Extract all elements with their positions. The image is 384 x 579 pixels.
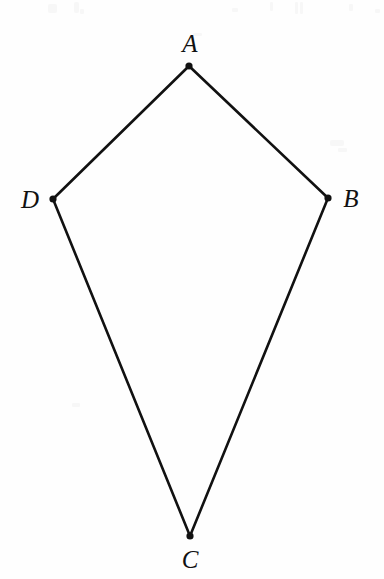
- vertex-dot-C: [186, 532, 193, 539]
- edge-group: [53, 66, 328, 536]
- vertex-dot-B: [324, 194, 331, 201]
- edge-DA: [53, 66, 189, 199]
- kite-figure: [0, 0, 384, 579]
- edge-AB: [189, 66, 328, 198]
- edge-BC: [190, 198, 328, 536]
- vertex-label-B: B: [343, 186, 358, 211]
- vertex-dot-A: [185, 62, 192, 69]
- figure-page: A B C D: [0, 0, 384, 579]
- vertex-label-A: A: [182, 31, 197, 56]
- edge-CD: [53, 199, 190, 536]
- vertex-label-D: D: [21, 187, 39, 212]
- vertex-dot-D: [49, 195, 56, 202]
- vertex-label-C: C: [182, 547, 199, 572]
- vertex-dot-group: [49, 62, 331, 539]
